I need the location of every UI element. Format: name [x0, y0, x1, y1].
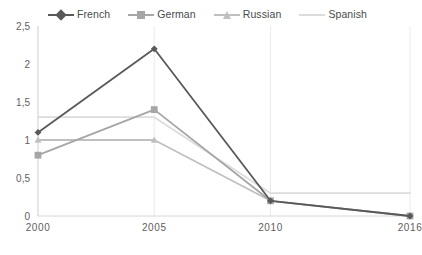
triangle-marker-icon [223, 11, 231, 19]
legend-label-german: German [157, 8, 196, 20]
x-tick-label: 2000 [26, 222, 51, 233]
series-line [38, 117, 410, 193]
legend-item-french[interactable]: French [48, 8, 110, 20]
legend-label-spanish: Spanish [328, 8, 367, 20]
y-axis: 00,511,522,5 [0, 26, 34, 216]
legend-key-russian [214, 9, 240, 20]
chart-legend: French German Russian Spanish [0, 4, 415, 24]
legend-item-russian[interactable]: Russian [214, 8, 282, 20]
plot-svg [38, 26, 410, 216]
legend-label-french: French [77, 8, 110, 20]
diamond-marker-icon [55, 9, 66, 20]
x-tick-label: 2016 [398, 222, 422, 233]
legend-key-spanish [299, 9, 325, 20]
x-tick-label: 2005 [142, 222, 167, 233]
plot-wrapper: 00,511,522,5 2000200520102016 [0, 26, 415, 255]
legend-item-spanish[interactable]: Spanish [299, 8, 367, 20]
legend-key-french [48, 9, 74, 20]
legend-label-russian: Russian [243, 8, 282, 20]
y-tick-label: 0 [24, 211, 30, 222]
y-tick-label: 0,5 [16, 173, 30, 184]
data-point-square [35, 152, 42, 159]
y-tick-label: 1,5 [16, 97, 30, 108]
square-marker-icon [137, 11, 145, 19]
x-tick-label: 2010 [258, 222, 283, 233]
x-axis: 2000200520102016 [38, 222, 410, 244]
legend-item-german[interactable]: German [128, 8, 196, 20]
series-spanish [38, 117, 410, 193]
legend-line-spanish [299, 14, 325, 16]
data-point-square [151, 106, 158, 113]
y-tick-label: 2,5 [16, 21, 30, 32]
legend-key-german [128, 9, 154, 20]
y-tick-label: 2 [24, 59, 30, 70]
y-tick-label: 1 [24, 135, 30, 146]
plot-area [38, 26, 410, 216]
